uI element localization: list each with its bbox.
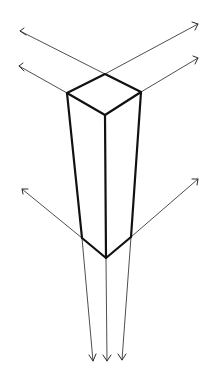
guide-line-down-left: [82, 238, 93, 361]
guide-line-left-upper: [20, 31, 105, 74]
guide-line-down-center: [106, 258, 107, 361]
box-top-face: [67, 74, 141, 115]
box-edge-right-vertical: [131, 92, 141, 237]
box: [67, 74, 141, 258]
box-edge-front-vertical: [105, 115, 106, 258]
box-edge-left-vertical: [67, 93, 82, 238]
drawing-canvas: Three-point perspective box with vanishi…: [0, 0, 217, 386]
guide-line-down-right: [122, 237, 131, 360]
perspective-sketch: [0, 0, 217, 386]
guide-line-right-lower: [141, 58, 198, 92]
arrowheads: [19, 22, 198, 361]
guide-line-left-lower: [19, 66, 67, 93]
guide-line-bottom-right-out: [131, 179, 198, 237]
guide-line-bottom-left-out: [22, 189, 82, 238]
arrowhead-left-upper-icon: [20, 28, 26, 35]
